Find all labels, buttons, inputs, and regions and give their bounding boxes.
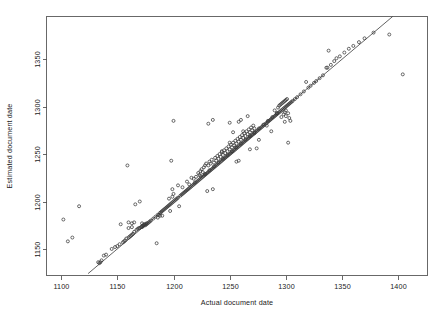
- data-point: [327, 49, 330, 52]
- data-point: [118, 243, 121, 246]
- y-tick-label-1200: 1200: [33, 194, 42, 211]
- data-point: [62, 218, 65, 221]
- data-point: [352, 44, 355, 47]
- data-point: [388, 33, 391, 36]
- data-point: [178, 205, 181, 208]
- y-tick-label-1250: 1250: [33, 146, 42, 163]
- data-point: [211, 118, 214, 121]
- data-point: [188, 183, 191, 186]
- data-point: [232, 131, 235, 134]
- data-point: [119, 223, 122, 226]
- plot-canvas: 1100115012001250130013501400 11501200125…: [0, 0, 446, 321]
- data-point: [357, 41, 360, 44]
- data-point: [211, 188, 214, 191]
- data-point: [185, 180, 188, 183]
- data-point: [284, 115, 287, 118]
- data-point: [333, 60, 336, 63]
- data-point: [363, 37, 366, 40]
- data-point: [228, 121, 231, 124]
- x-tick-label-1100: 1100: [53, 282, 69, 291]
- data-point: [257, 138, 260, 141]
- x-tick-label-1150: 1150: [109, 282, 125, 291]
- data-point: [127, 227, 130, 230]
- data-point: [170, 159, 173, 162]
- data-point: [126, 164, 129, 167]
- data-point: [127, 221, 130, 224]
- data-point: [171, 188, 174, 191]
- y-tick-label-1350: 1350: [33, 51, 42, 68]
- data-point: [78, 205, 81, 208]
- data-point: [248, 148, 251, 151]
- scatter-points: [62, 31, 404, 265]
- data-point: [181, 186, 184, 189]
- data-point: [168, 197, 171, 200]
- data-point: [194, 175, 197, 178]
- y-axis-title: Estimated document date: [5, 104, 14, 189]
- data-point: [239, 118, 242, 121]
- data-point: [280, 116, 283, 119]
- y-axis-tick-labels: 11501200125013001350: [33, 51, 42, 257]
- data-point: [207, 122, 210, 125]
- data-point: [305, 80, 308, 83]
- x-tick-label-1400: 1400: [390, 282, 407, 291]
- y-tick-label-1300: 1300: [33, 99, 42, 116]
- x-axis-tick-labels: 1100115012001250130013501400: [53, 282, 406, 291]
- data-point: [335, 57, 338, 60]
- x-tick-label-1250: 1250: [222, 282, 239, 291]
- data-point: [71, 236, 74, 239]
- x-tick-label-1200: 1200: [166, 282, 183, 291]
- data-point: [289, 119, 292, 122]
- data-point: [134, 203, 137, 206]
- data-point: [270, 130, 273, 133]
- data-point: [343, 51, 346, 54]
- data-point: [273, 109, 276, 112]
- data-point: [246, 115, 249, 118]
- x-axis-title: Actual document date: [201, 298, 273, 307]
- data-point: [172, 119, 175, 122]
- data-point: [253, 127, 256, 130]
- data-point: [155, 242, 158, 245]
- data-point: [177, 184, 180, 187]
- data-point: [169, 209, 172, 212]
- data-point: [110, 247, 113, 250]
- data-point: [401, 73, 404, 76]
- data-point: [347, 47, 350, 50]
- data-point: [138, 200, 141, 203]
- y-axis-ticks: [43, 60, 47, 250]
- data-point: [338, 55, 341, 58]
- data-point: [210, 158, 213, 161]
- data-point: [66, 240, 69, 243]
- data-point: [329, 63, 332, 66]
- y-tick-label-1150: 1150: [33, 241, 42, 257]
- data-point: [255, 147, 258, 150]
- data-point: [206, 190, 209, 193]
- data-point: [283, 120, 286, 123]
- data-point: [287, 141, 290, 144]
- scatter-plot-figure: 1100115012001250130013501400 11501200125…: [0, 0, 446, 321]
- x-tick-label-1300: 1300: [278, 282, 295, 291]
- data-point: [130, 226, 133, 229]
- x-axis-ticks: [62, 276, 399, 280]
- data-point: [287, 112, 290, 115]
- data-point: [172, 192, 175, 195]
- x-tick-label-1350: 1350: [334, 282, 351, 291]
